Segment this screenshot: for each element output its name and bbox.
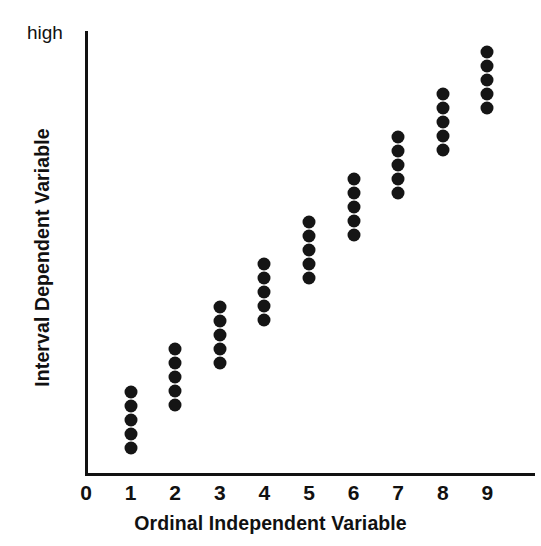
data-point <box>169 399 182 412</box>
data-point <box>303 257 316 270</box>
scatter-plot-figure: high Interval Dependent Variable 0123456… <box>0 0 541 546</box>
data-point <box>169 385 182 398</box>
data-point <box>481 73 494 86</box>
data-point <box>392 158 405 171</box>
data-point <box>124 442 137 455</box>
x-axis-tick-labels: 0123456789 <box>0 480 541 508</box>
y-axis-high-label: high <box>27 22 63 44</box>
data-point <box>436 144 449 157</box>
x-tick-label-5: 5 <box>303 480 315 506</box>
data-point <box>392 144 405 157</box>
data-point <box>347 229 360 242</box>
data-point <box>169 343 182 356</box>
data-point <box>481 45 494 58</box>
x-tick-label-0: 0 <box>80 480 92 506</box>
y-axis-title: Interval Dependent Variable <box>31 108 54 408</box>
data-point <box>169 371 182 384</box>
data-point <box>303 215 316 228</box>
data-point <box>347 187 360 200</box>
data-point <box>436 102 449 115</box>
data-point <box>213 356 226 369</box>
data-point <box>124 399 137 412</box>
data-point <box>436 88 449 101</box>
x-tick-label-7: 7 <box>392 480 404 506</box>
data-point <box>124 385 137 398</box>
data-point <box>481 101 494 114</box>
x-tick-label-8: 8 <box>437 480 449 506</box>
data-point <box>392 130 405 143</box>
data-point <box>213 300 226 313</box>
data-point <box>213 328 226 341</box>
data-point <box>213 314 226 327</box>
data-point <box>213 342 226 355</box>
data-point <box>124 427 137 440</box>
y-axis-line <box>85 31 88 476</box>
data-point <box>347 173 360 186</box>
data-point <box>436 116 449 129</box>
data-point <box>303 271 316 284</box>
x-tick-label-6: 6 <box>348 480 360 506</box>
data-point <box>347 201 360 214</box>
x-tick-label-9: 9 <box>482 480 494 506</box>
data-point <box>258 314 271 327</box>
x-tick-label-3: 3 <box>214 480 226 506</box>
x-tick-label-1: 1 <box>125 480 137 506</box>
data-point <box>258 300 271 313</box>
data-point <box>347 215 360 228</box>
data-point <box>303 229 316 242</box>
data-point <box>481 87 494 100</box>
data-point <box>436 130 449 143</box>
data-point <box>258 272 271 285</box>
plot-area <box>0 0 541 546</box>
data-point <box>392 172 405 185</box>
x-axis-title: Ordinal Independent Variable <box>0 512 541 535</box>
data-point <box>124 413 137 426</box>
data-point <box>169 357 182 370</box>
data-point <box>303 243 316 256</box>
data-point <box>258 258 271 271</box>
data-point <box>258 286 271 299</box>
x-tick-label-4: 4 <box>259 480 271 506</box>
x-axis-line <box>85 473 535 476</box>
data-point <box>392 186 405 199</box>
x-tick-label-2: 2 <box>169 480 181 506</box>
data-point <box>481 59 494 72</box>
